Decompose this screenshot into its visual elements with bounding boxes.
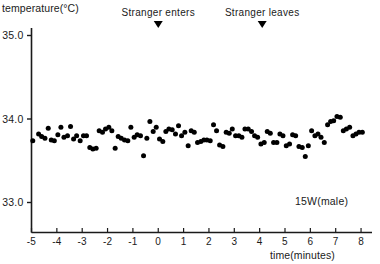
data-point <box>65 133 70 138</box>
data-point <box>227 131 232 136</box>
data-point <box>255 135 260 140</box>
data-point <box>186 143 191 148</box>
data-point <box>322 140 327 145</box>
data-point <box>109 128 114 133</box>
x-tick-label: 2 <box>200 237 218 247</box>
data-point <box>319 135 324 140</box>
x-tick-label: -4 <box>48 237 66 247</box>
x-tick-label: 4 <box>251 237 269 247</box>
data-point <box>347 125 352 130</box>
y-axis-title: temperature(°C) <box>2 3 79 14</box>
scatter-chart: temperature(°C) time(minutes) 15W(male) … <box>0 0 380 264</box>
x-tick-label: 8 <box>352 237 370 247</box>
series-label: 15W(male) <box>295 196 348 207</box>
data-point <box>46 126 51 131</box>
down-triangle-icon <box>258 21 267 28</box>
data-point <box>78 138 83 143</box>
data-point <box>192 130 197 135</box>
data-point <box>360 130 365 135</box>
data-point <box>303 154 308 159</box>
data-point <box>147 119 152 124</box>
data-point <box>74 133 79 138</box>
data-point <box>262 140 267 145</box>
x-axis-title: time(minutes) <box>270 250 335 261</box>
data-point <box>125 138 130 143</box>
data-point <box>113 146 118 151</box>
x-tick-label: 3 <box>225 237 243 247</box>
data-point <box>208 138 213 143</box>
annotation-label: Stranger leaves <box>217 8 307 18</box>
data-point <box>280 133 285 138</box>
y-tick-label: 33.0 <box>0 197 24 208</box>
data-point <box>176 123 181 128</box>
data-point <box>249 129 254 134</box>
x-tick-label: -3 <box>73 237 91 247</box>
data-point <box>151 129 156 134</box>
x-tick-label: 7 <box>327 237 345 247</box>
data-point <box>309 128 314 133</box>
data-point <box>220 144 225 149</box>
data-point <box>170 127 175 132</box>
data-point <box>138 133 143 138</box>
data-point <box>160 139 165 144</box>
x-tick-label: 6 <box>301 237 319 247</box>
data-point <box>211 122 216 127</box>
data-point <box>52 138 57 143</box>
data-point <box>338 115 343 120</box>
data-point <box>274 140 279 145</box>
data-point <box>287 142 292 147</box>
annotation-label: Stranger enters <box>113 8 203 18</box>
data-point <box>173 132 178 137</box>
y-tick-label: 34.0 <box>0 114 24 125</box>
y-tick-label: 35.0 <box>0 30 24 41</box>
x-tick-label: 5 <box>276 237 294 247</box>
data-point <box>239 135 244 140</box>
x-tick-label: 0 <box>149 237 167 247</box>
data-point <box>141 153 146 158</box>
data-point <box>30 138 35 143</box>
data-point <box>58 125 63 130</box>
data-point <box>306 143 311 148</box>
down-triangle-icon <box>154 21 163 28</box>
data-point <box>154 125 159 130</box>
data-point <box>214 128 219 133</box>
x-tick-label: -5 <box>23 237 41 247</box>
data-point <box>68 124 73 129</box>
data-point <box>94 146 99 151</box>
data-point <box>182 130 187 135</box>
data-point <box>300 145 305 150</box>
data-point <box>268 131 273 136</box>
data-point <box>55 132 60 137</box>
data-point <box>230 127 235 132</box>
plot-area <box>0 0 380 264</box>
x-tick-label: 1 <box>175 237 193 247</box>
data-point <box>144 136 149 141</box>
data-point <box>128 125 133 130</box>
x-tick-label: -2 <box>99 237 117 247</box>
data-point-group <box>30 114 365 159</box>
data-point <box>331 118 336 123</box>
data-point <box>293 133 298 138</box>
data-point <box>42 136 47 141</box>
data-point <box>84 133 89 138</box>
x-tick-label: -1 <box>124 237 142 247</box>
